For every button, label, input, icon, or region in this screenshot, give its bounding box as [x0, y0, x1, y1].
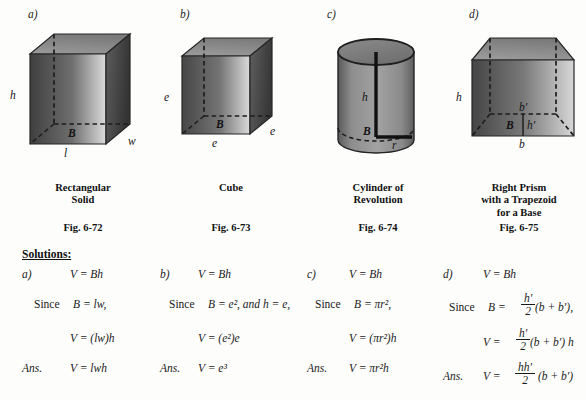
solution-d-fraction-since: h′ 2: [521, 292, 535, 318]
caption-cube: Cube: [166, 182, 296, 194]
solution-tag-c: c): [307, 268, 316, 280]
rect-solid-right-face: [106, 34, 130, 144]
solution-c-ans-tag: Ans.: [307, 362, 327, 374]
solution-tag-a: a): [22, 268, 32, 280]
solution-d-line3-lead: V =: [483, 336, 500, 348]
fraction-denominator: 2: [516, 339, 530, 353]
figure-number-d: Fig. 6-75: [455, 222, 583, 233]
solution-d-since-prefix: Since: [449, 301, 475, 313]
solution-row-since: Since B = lw,: [22, 298, 162, 328]
figure-number-b: Fig. 6-73: [166, 222, 296, 233]
solution-row-since: Since B = πr²,: [307, 298, 457, 328]
solution-d-fraction-answer: hh′ 2: [515, 361, 535, 387]
figure-page: a): [0, 0, 586, 400]
solution-row-substituted: V = (e²)e: [160, 328, 320, 358]
caption-rectangular-solid: Rectangular Solid: [18, 182, 148, 207]
solution-column-a: a) V = Bh Since B = lw, V = (lw)h Ans. V…: [22, 268, 162, 388]
label-base-area-b: B: [216, 119, 224, 131]
solution-row-formula: b) V = Bh: [160, 268, 320, 298]
label-width-a: w: [128, 136, 136, 148]
solution-d-line3-tail: (b + b′) h: [530, 336, 574, 348]
fraction-numerator: hh′: [515, 361, 535, 373]
solution-row-substituted: V = (lw)h: [22, 328, 162, 358]
solution-b-ans: V = e³: [198, 362, 227, 374]
solution-a-line3: V = (lw)h: [70, 332, 115, 344]
solution-a-ans: V = lwh: [70, 362, 107, 374]
label-height-a: h: [10, 90, 16, 102]
solution-c-ans: V = πr²h: [349, 362, 389, 374]
solution-row-answer: Ans. V = πr²h: [307, 358, 457, 388]
solution-a-ans-tag: Ans.: [22, 362, 42, 374]
solution-b-line1: V = Bh: [198, 268, 231, 280]
solution-row-formula: a) V = Bh: [22, 268, 162, 298]
solution-row-substituted: V = h′ 2 (b + b′) h: [443, 332, 586, 364]
solution-row-since: Since B = e², and h = e,: [160, 298, 320, 328]
label-length-a: l: [64, 148, 67, 160]
solution-c-line3: V = (πr²)h: [349, 332, 396, 344]
solution-c-line1: V = Bh: [349, 268, 382, 280]
solution-d-ans-tag: Ans.: [443, 370, 463, 382]
caption-cylinder: Cylinder of Revolution: [318, 182, 438, 207]
label-upper-base-d: b′: [519, 102, 527, 114]
figure-cylinder: h B r: [332, 36, 424, 162]
panel-letter-a: a): [28, 8, 38, 20]
solution-row-formula: c) V = Bh: [307, 268, 457, 298]
label-height-d: h: [456, 92, 462, 104]
figure-number-a: Fig. 6-72: [18, 222, 148, 233]
label-radius-c: r: [392, 140, 396, 152]
solution-column-c: c) V = Bh Since B = πr², V = (πr²)h Ans.…: [307, 268, 457, 388]
prism-top-face: [472, 38, 574, 60]
fraction-numerator: h′: [516, 327, 530, 339]
label-lower-base-d: b: [519, 139, 525, 151]
solution-b-since-prefix: Since: [169, 298, 195, 310]
solution-row-answer: Ans. V = hh′ 2 (b + b′): [443, 364, 586, 394]
solution-d-ans-tail: (b + b′): [538, 370, 573, 382]
figure-right-prism-trapezoid: h b′ B h′ b: [464, 32, 582, 158]
solution-tag-d: d): [443, 268, 453, 280]
figure-number-c: Fig. 6-74: [318, 222, 438, 233]
solution-b-ans-tag: Ans.: [160, 362, 180, 374]
solution-d-line2-tail: (b + b′),: [535, 301, 573, 313]
label-base-area-a: B: [68, 128, 76, 140]
label-base-area-d: B: [506, 120, 514, 132]
solution-d-fraction-substituted: h′ 2: [516, 327, 530, 353]
label-edge-right-b: e: [270, 126, 275, 138]
solution-row-answer: Ans. V = lwh: [22, 358, 162, 388]
fraction-numerator: h′: [521, 292, 535, 304]
figure-cube: e B e e: [176, 34, 286, 154]
solution-row-substituted: V = (πr²)h: [307, 328, 457, 358]
solution-column-d: d) V = Bh Since B = h′ 2 (b + b′), V = h…: [443, 268, 586, 394]
caption-right-prism: Right Prism with a Trapezoid for a Base: [455, 182, 583, 219]
solution-b-line2: B = e², and h = e,: [208, 298, 290, 310]
solution-c-since-prefix: Since: [315, 298, 341, 310]
label-edge-left-b: e: [164, 92, 169, 104]
panel-letter-c: c): [327, 8, 336, 20]
solution-tag-b: b): [160, 268, 170, 280]
solution-row-since: Since B = h′ 2 (b + b′),: [443, 298, 586, 332]
solution-row-formula: d) V = Bh: [443, 268, 586, 298]
solutions-header: Solutions:: [22, 248, 71, 260]
panel-letter-d: d): [469, 8, 479, 20]
label-edge-bottom-b: e: [212, 138, 217, 150]
solution-d-ans-lead: V =: [483, 370, 500, 382]
solution-a-line2: B = lw,: [73, 298, 106, 310]
fraction-denominator: 2: [521, 304, 535, 318]
panel-letter-b: b): [180, 8, 190, 20]
fraction-denominator: 2: [515, 373, 535, 387]
figure-rectangular-solid: h B l w: [24, 28, 144, 158]
label-height-c: h: [362, 92, 368, 104]
solution-d-line2-lead: B =: [488, 301, 506, 313]
solution-b-line3: V = (e²)e: [198, 332, 240, 344]
solution-c-line2: B = πr²,: [354, 298, 391, 310]
solution-a-line1: V = Bh: [70, 268, 103, 280]
solution-d-line1: V = Bh: [483, 268, 516, 280]
label-trapezoid-height-d: h′: [527, 120, 535, 132]
solution-row-answer: Ans. V = e³: [160, 358, 320, 388]
solution-column-b: b) V = Bh Since B = e², and h = e, V = (…: [160, 268, 320, 388]
label-base-area-c: B: [363, 126, 371, 138]
solution-a-since-prefix: Since: [34, 298, 60, 310]
